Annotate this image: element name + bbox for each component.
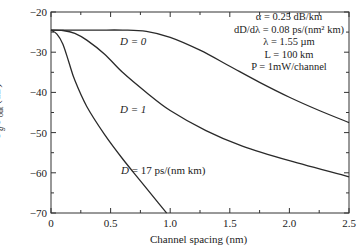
parameter-line: L = 100 km	[229, 49, 349, 62]
y-tick-label: −20	[23, 6, 47, 18]
parameter-line: dD/dλ = 0.08 ps/(nm² km)	[229, 24, 349, 37]
y-tick-label: −60	[23, 167, 47, 179]
x-tick-label: 2.0	[277, 217, 301, 229]
y-tick-label: −30	[23, 46, 47, 58]
x-tick-label: 2.5	[337, 217, 361, 229]
parameter-annotation: α = 0.25 dB/kmdD/dλ = 0.08 ps/(nm² km)λ …	[229, 11, 349, 74]
label-d1: D = 1	[120, 103, 146, 115]
x-tick-label: 0.5	[99, 217, 123, 229]
x-tick-label: 1.0	[158, 217, 182, 229]
x-tick-label: 0	[39, 217, 63, 229]
label-d0: D = 0	[120, 35, 146, 47]
parameter-line: α = 0.25 dB/km	[229, 11, 349, 24]
label-d17-rest: = 17 ps/(nm km)	[129, 164, 205, 176]
x-tick-label: 1.5	[218, 217, 242, 229]
x-axis-label: Channel spacing (nm)	[150, 233, 247, 245]
parameter-line: λ = 1.55 µm	[229, 36, 349, 49]
y-tick-label: −50	[23, 127, 47, 139]
label-d17: D = 17 ps/(nm km)	[121, 164, 205, 176]
y-axis-label: Pg/Pout (dB)	[0, 84, 7, 138]
parameter-line: P = 1mW/channel	[229, 61, 349, 74]
y-tick-label: −40	[23, 86, 47, 98]
